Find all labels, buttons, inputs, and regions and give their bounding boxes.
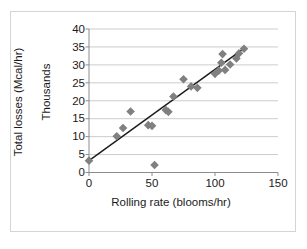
data-point — [226, 60, 235, 69]
data-point — [179, 75, 188, 84]
plot-area: 40 35 30 25 20 15 10 5 0 0 50 100 150 — [0, 0, 307, 249]
chart-figure: Total losses (Mcal/hr) Thousands Rolling… — [0, 0, 307, 249]
data-point — [217, 58, 226, 67]
data-point — [169, 92, 178, 101]
data-point — [112, 132, 121, 141]
data-point — [126, 107, 135, 116]
data-point — [221, 66, 230, 75]
data-markers — [85, 44, 249, 169]
axis-ticks — [86, 29, 279, 176]
plot-svg — [0, 0, 307, 249]
data-point — [119, 124, 128, 133]
data-point — [218, 50, 227, 59]
data-point — [150, 161, 159, 170]
